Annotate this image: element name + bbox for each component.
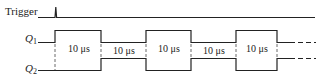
- q1-waveform: [38, 31, 316, 43]
- q2-label-text: Q: [25, 62, 33, 74]
- duration-label-2: 10 μs: [103, 46, 145, 56]
- q1-label-text: Q: [25, 32, 33, 44]
- duration-label-3: 10 μs: [148, 44, 190, 54]
- q1-label: Q1: [25, 33, 37, 46]
- duration-label-5: 10 μs: [237, 44, 277, 54]
- q2-waveform: [38, 59, 316, 71]
- trigger-label: Trigger: [5, 6, 38, 17]
- timing-diagram: Trigger Q1 Q2 10 μs 10 μs 10 μs 10 μs 10…: [0, 0, 323, 83]
- q2-label: Q2: [25, 63, 37, 76]
- q1-label-subscript: 1: [33, 37, 37, 46]
- duration-label-1: 10 μs: [58, 44, 100, 54]
- trigger-label-text: Trigger: [5, 5, 38, 17]
- trigger-waveform: [38, 7, 315, 18]
- q2-label-subscript: 2: [33, 67, 37, 76]
- waveforms: [0, 0, 323, 83]
- duration-label-4: 10 μs: [193, 46, 235, 56]
